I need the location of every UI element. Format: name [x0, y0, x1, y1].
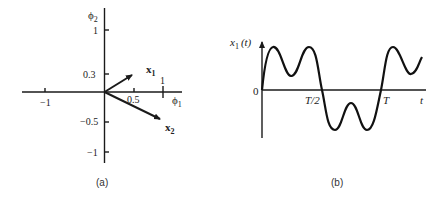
t-half-period-label: T/2 — [305, 94, 320, 106]
y-tick-label: −1 — [87, 147, 98, 158]
t-axis-label: t — [420, 94, 424, 106]
vector-x1-label: x1 — [146, 63, 156, 78]
y-tick-label: 0.3 — [83, 69, 96, 80]
vector-x1 — [105, 75, 133, 92]
x1t-axis-label: x1(t) — [229, 36, 252, 51]
caption-b: (b) — [331, 177, 343, 188]
panel-b-waveform: x1(t) 0 T/2 T t (b) — [229, 36, 426, 188]
t-period-label: T — [383, 94, 390, 106]
phi1-axis-label: ϕ1 — [172, 94, 182, 109]
y-tick-label: 1 — [93, 25, 98, 36]
phi2-axis-label: ϕ2 — [88, 9, 98, 24]
x-tick-label: 1 — [160, 75, 165, 86]
figure: −1 0.5 1 1 0.3 −0.5 −1 ϕ2 ϕ1 x1 x2 (a) x… — [0, 0, 446, 208]
caption-a: (a) — [96, 177, 108, 188]
x-tick-label: −1 — [40, 97, 51, 108]
panel-a-signal-space: −1 0.5 1 1 0.3 −0.5 −1 ϕ2 ϕ1 x1 x2 (a) — [22, 8, 182, 188]
waveform-x1t — [262, 47, 422, 130]
origin-label: 0 — [253, 85, 259, 97]
y-tick-label: −0.5 — [80, 116, 98, 127]
vector-x2-label: x2 — [165, 121, 175, 136]
